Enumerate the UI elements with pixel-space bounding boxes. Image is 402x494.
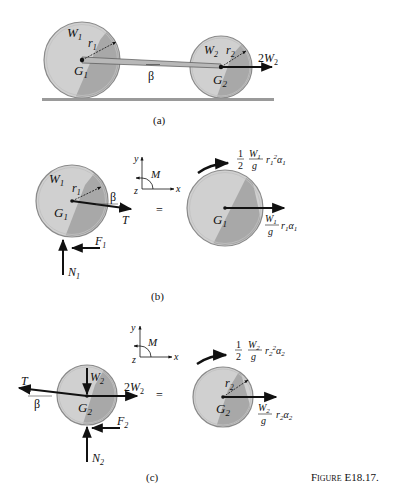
ground-line [42,98,274,101]
inertia-force-expression-1: W1 g r1α1 [265,213,297,237]
svg-text:g: g [261,415,266,426]
fbd-wheel-1: W1 r1 G1 β T F1 N1 [36,160,131,281]
label-n2: N2 [91,451,104,467]
inertia-moment-arrow-2 [197,355,226,364]
inertia-force-expression-2: W2 g r2α2 [258,402,293,426]
moment-label-c: M [147,336,158,348]
inertia-moment-expression-1: 1 2 W1 g r12α1 [237,148,286,171]
svg-text:2: 2 [238,160,243,171]
svg-text:r12α1: r12α1 [266,153,286,167]
svg-text:W2: W2 [258,402,270,415]
label-n1: N1 [67,265,80,281]
equals-sign-c: = [156,388,163,402]
svg-text:W1: W1 [265,213,277,226]
svg-text:1: 1 [236,339,241,350]
coordinate-axes-b: y x z M [133,153,181,196]
axis-y-label-c: y [130,322,136,333]
label-f2: F2 [116,414,128,430]
axis-y-label: y [133,153,139,164]
label-beta: β [148,69,154,83]
kinetic-diagram-wheel-1: G1 1 2 W1 g r12α1 W1 g r1α1 [187,148,297,260]
svg-text:r2α2: r2α2 [276,409,293,422]
coordinate-axes-c: y x z M [130,322,179,365]
label-beta-b: β [110,190,116,204]
label-beta-c: β [34,397,40,411]
axis-x-label: x [175,183,181,194]
panel-b-label: (b) [151,290,164,303]
label-t-c: T [21,374,29,388]
svg-text:1: 1 [238,148,243,159]
panel-a-label: (a) [153,114,166,127]
axis-x-label-c: x [173,351,179,362]
axis-z-label: z [133,185,138,196]
panel-c: y x z M T β W2 2W2 G2 F2 N2 [19,322,293,484]
panel-a: W1 r1 G1 β W2 r2 G2 2W2 (a) [42,15,278,127]
label-t-b: T [122,213,130,227]
label-2w2-c: 2W2 [124,380,144,396]
svg-text:g: g [251,351,256,362]
svg-text:g: g [268,226,273,237]
kinetic-diagram-wheel-2: r2 G2 1 2 W2 g r22α2 W2 g r2α2 [193,339,293,440]
svg-text:r22α2: r22α2 [265,344,285,358]
equals-sign-b: = [156,203,163,217]
label-f1: F1 [94,234,106,250]
label-2w2: 2W2 [258,51,278,67]
figure-canvas: W1 r1 G1 β W2 r2 G2 2W2 (a) y x z M [0,0,402,494]
fbd-wheel-2: T β W2 2W2 G2 F2 N2 [19,360,144,467]
panel-c-label: (c) [146,471,159,484]
panel-b: y x z M W1 r1 G1 β T F1 N1 [36,148,297,303]
axis-z-label-c: z [131,354,136,365]
moment-label: M [150,168,161,180]
svg-text:g: g [252,160,257,171]
svg-text:2: 2 [236,351,241,362]
svg-text:r1α1: r1α1 [281,220,297,233]
figure-caption: FigureE18.17. [311,471,379,483]
inertia-moment-expression-2: 1 2 W2 g r22α2 [235,339,285,362]
